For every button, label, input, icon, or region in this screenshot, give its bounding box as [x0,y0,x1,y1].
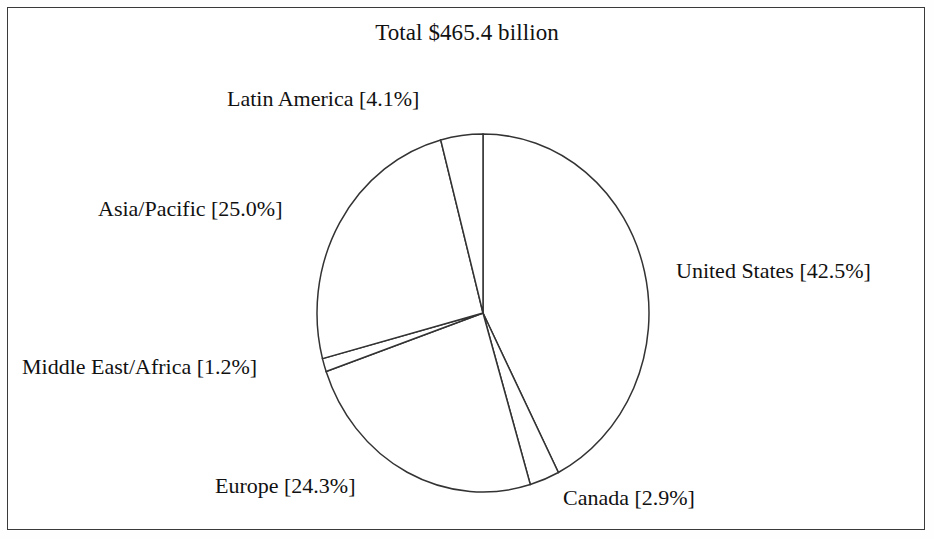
pie-label-united-states: United States [42.5%] [676,259,871,283]
pie-label-middle-east-africa: Middle East/Africa [1.2%] [22,355,257,379]
pie-label-europe: Europe [24.3%] [215,474,356,498]
pie-label-canada: Canada [2.9%] [563,486,695,510]
pie-slices-group [317,134,649,492]
pie-label-asia-pacific: Asia/Pacific [25.0%] [98,197,283,221]
pie-chart-figure: Total $465.4 billion United States [42.5… [0,0,934,539]
pie-label-latin-america: Latin America [4.1%] [227,87,419,111]
